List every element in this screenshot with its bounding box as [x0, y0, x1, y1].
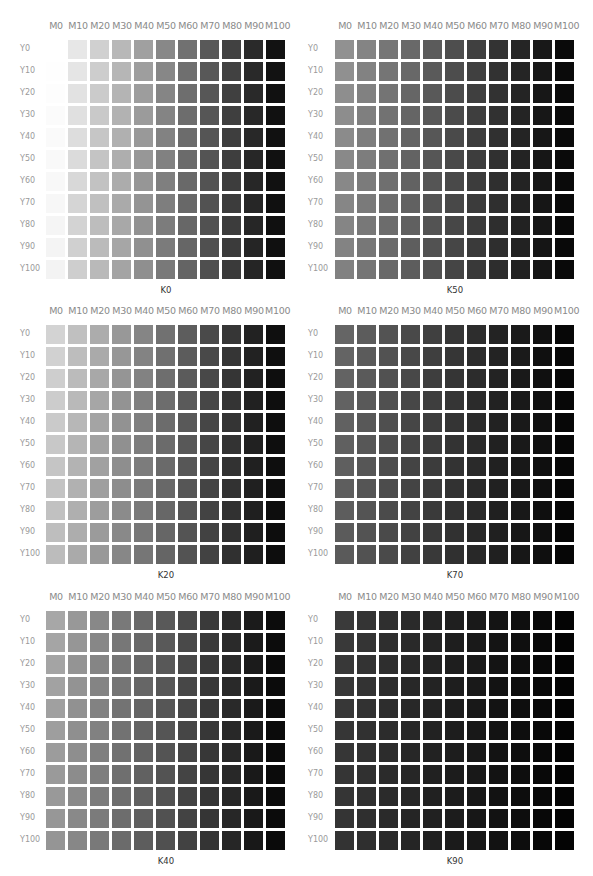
- color-swatch: [533, 128, 552, 147]
- yellow-row-label: Y50: [308, 439, 332, 448]
- color-swatch: [90, 479, 109, 498]
- color-swatch: [533, 677, 552, 696]
- color-swatch: [357, 150, 376, 169]
- color-swatch: [134, 435, 153, 454]
- magenta-column-label: M80: [221, 20, 243, 31]
- color-swatch: [533, 369, 552, 388]
- color-swatch: [335, 260, 354, 279]
- color-swatch: [90, 435, 109, 454]
- color-swatch: [156, 831, 175, 850]
- color-swatch: [335, 787, 354, 806]
- color-swatch: [533, 391, 552, 410]
- color-swatch: [266, 325, 285, 344]
- color-swatch: [112, 413, 131, 432]
- magenta-column-label: M70: [199, 305, 221, 316]
- color-swatch: [266, 347, 285, 366]
- color-swatch: [178, 150, 197, 169]
- color-swatch: [379, 369, 398, 388]
- color-swatch: [90, 216, 109, 235]
- color-swatch: [156, 260, 175, 279]
- color-swatch: [222, 194, 241, 213]
- magenta-column-label: M70: [488, 20, 510, 31]
- color-swatch: [178, 611, 197, 630]
- color-swatch: [401, 84, 420, 103]
- yellow-row-label: Y30: [20, 681, 44, 690]
- color-swatch: [200, 501, 219, 520]
- color-swatch: [200, 260, 219, 279]
- color-swatch: [222, 260, 241, 279]
- magenta-column-label: M10: [67, 20, 89, 31]
- color-swatch: [266, 194, 285, 213]
- color-swatch: [68, 765, 87, 784]
- color-swatch: [533, 216, 552, 235]
- magenta-column-label: M30: [111, 591, 133, 602]
- color-swatch: [266, 106, 285, 125]
- yellow-row-label: Y80: [20, 791, 44, 800]
- color-swatch: [90, 369, 109, 388]
- magenta-column-label: M30: [400, 591, 422, 602]
- color-swatch: [357, 40, 376, 59]
- color-swatch: [200, 413, 219, 432]
- color-swatch: [46, 84, 65, 103]
- color-swatch: [467, 457, 486, 476]
- color-swatch: [335, 743, 354, 762]
- color-swatch: [244, 721, 263, 740]
- color-swatch: [423, 545, 442, 564]
- color-swatch: [401, 501, 420, 520]
- color-swatch: [511, 172, 530, 191]
- color-swatch: [178, 347, 197, 366]
- color-swatch: [90, 611, 109, 630]
- color-swatch: [357, 325, 376, 344]
- color-swatch: [222, 238, 241, 257]
- color-swatch: [112, 765, 131, 784]
- color-swatch: [511, 435, 530, 454]
- yellow-row-label: Y80: [308, 791, 332, 800]
- color-swatch: [90, 172, 109, 191]
- color-swatch: [357, 523, 376, 542]
- color-swatch: [357, 545, 376, 564]
- color-swatch: [156, 699, 175, 718]
- color-swatch: [489, 809, 508, 828]
- color-swatch: [112, 721, 131, 740]
- color-swatch: [533, 721, 552, 740]
- color-swatch: [511, 391, 530, 410]
- yellow-row-label: Y100: [20, 549, 44, 558]
- color-swatch: [445, 545, 464, 564]
- color-swatch: [401, 699, 420, 718]
- magenta-column-label: M100: [265, 20, 287, 31]
- color-swatch: [134, 787, 153, 806]
- magenta-column-label: M0: [334, 591, 356, 602]
- magenta-column-label: M30: [111, 305, 133, 316]
- yellow-row-label: Y0: [308, 329, 332, 338]
- color-swatch: [555, 633, 574, 652]
- color-swatch: [335, 611, 354, 630]
- color-swatch: [445, 457, 464, 476]
- color-swatch: [200, 743, 219, 762]
- color-swatch: [533, 238, 552, 257]
- color-swatch: [112, 40, 131, 59]
- color-swatch: [467, 172, 486, 191]
- color-swatch: [244, 40, 263, 59]
- color-swatch: [511, 743, 530, 762]
- color-swatch: [445, 611, 464, 630]
- swatch-panel-k20: M0M10M20M30M40M50M60M70M80M90M100Y0Y10Y2…: [0, 305, 290, 585]
- color-swatch: [511, 238, 530, 257]
- yellow-row-label: Y40: [20, 132, 44, 141]
- color-swatch: [335, 765, 354, 784]
- color-swatch: [379, 633, 398, 652]
- color-swatch: [335, 721, 354, 740]
- color-swatch: [423, 260, 442, 279]
- color-swatch: [222, 611, 241, 630]
- magenta-column-label: M90: [532, 305, 554, 316]
- color-swatch: [244, 325, 263, 344]
- magenta-column-label: M100: [265, 591, 287, 602]
- color-swatch: [467, 523, 486, 542]
- color-swatch: [401, 545, 420, 564]
- color-swatch: [445, 655, 464, 674]
- color-swatch: [266, 40, 285, 59]
- color-swatch: [90, 787, 109, 806]
- color-swatch: [46, 699, 65, 718]
- color-swatch: [134, 40, 153, 59]
- color-swatch: [379, 809, 398, 828]
- color-swatch: [112, 391, 131, 410]
